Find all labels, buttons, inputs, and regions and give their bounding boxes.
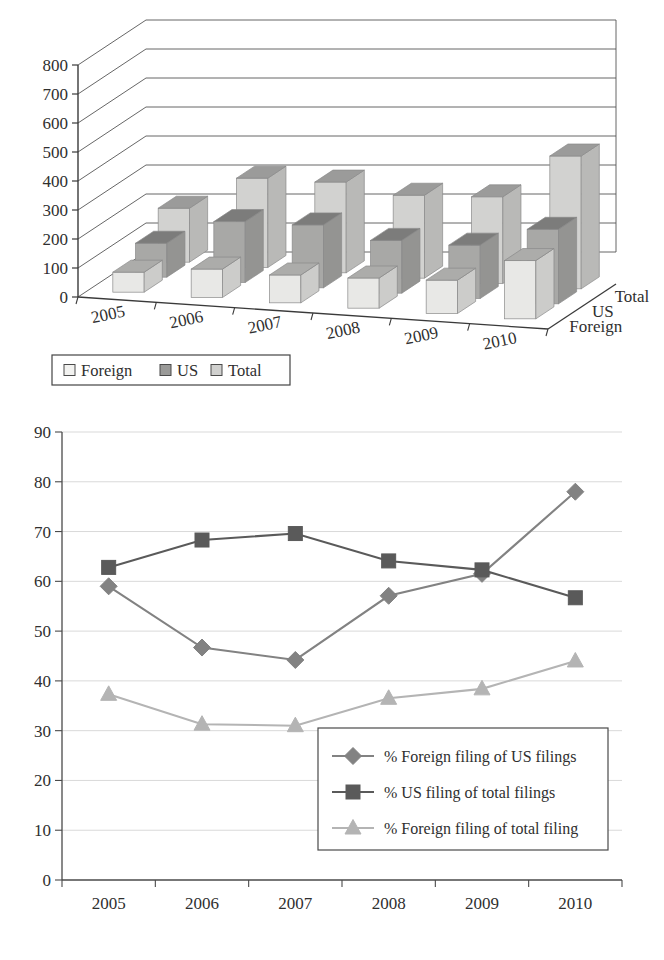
line-y-tick-label: 90 <box>34 423 51 442</box>
marker-diamond <box>380 587 397 604</box>
marker-square <box>568 591 582 605</box>
line-x-tick-label: 2010 <box>558 894 592 913</box>
svg-text:400: 400 <box>43 172 69 191</box>
marker-square <box>382 554 396 568</box>
bar-3d <box>505 249 554 319</box>
line-y-tick-label: 30 <box>34 722 51 741</box>
bar-chart-panel: 0100200300400500600700800200520062007200… <box>0 0 664 400</box>
bar-depth-label: Total <box>615 287 650 306</box>
marker-square <box>195 533 209 547</box>
marker-diamond <box>194 639 211 656</box>
line-y-tick-label: 60 <box>34 572 51 591</box>
marker-square <box>475 563 489 577</box>
bar-x-tick-label: 2007 <box>246 312 284 338</box>
line-legend: % Foreign filing of US filings% US filin… <box>318 728 608 850</box>
legend-label: % Foreign filing of total filing <box>384 820 578 838</box>
marker-diamond <box>100 578 117 595</box>
legend-label: Foreign <box>81 361 132 380</box>
line-x-tick-label: 2007 <box>278 894 313 913</box>
bar-legend: ForeignUSTotal <box>52 355 290 385</box>
legend-swatch <box>160 365 171 376</box>
svg-text:600: 600 <box>43 114 69 133</box>
bar-chart-svg: 0100200300400500600700800200520062007200… <box>0 0 664 400</box>
line-series <box>100 483 584 668</box>
marker-square <box>346 785 360 799</box>
marker-square <box>102 560 116 574</box>
svg-text:100: 100 <box>43 259 69 278</box>
svg-text:0: 0 <box>60 288 69 307</box>
svg-text:800: 800 <box>43 56 69 75</box>
bar-x-tick-label: 2005 <box>89 301 126 327</box>
bar-depth-label: Foreign <box>569 317 622 336</box>
marker-diamond <box>287 651 304 668</box>
line-x-tick-label: 2005 <box>92 894 126 913</box>
bar-3d <box>191 257 240 297</box>
line-chart-panel: 0102030405060708090200520062007200820092… <box>0 400 664 960</box>
line-series <box>102 527 583 605</box>
legend-swatch <box>211 365 222 376</box>
bar-x-tick-label: 2009 <box>403 323 440 349</box>
marker-triangle <box>101 686 117 701</box>
bar-3d <box>426 268 475 313</box>
line-x-tick-label: 2006 <box>185 894 219 913</box>
line-y-tick-label: 50 <box>34 622 51 641</box>
bar-x-tick-label: 2006 <box>168 307 205 333</box>
line-y-tick-label: 20 <box>34 771 51 790</box>
line-y-tick-label: 40 <box>34 672 51 691</box>
marker-triangle <box>567 652 583 667</box>
line-chart-svg: 0102030405060708090200520062007200820092… <box>0 400 664 960</box>
line-x-tick-label: 2008 <box>372 894 406 913</box>
legend-label: % Foreign filing of US filings <box>384 748 576 766</box>
svg-text:200: 200 <box>43 230 69 249</box>
legend-label: US <box>177 361 198 380</box>
line-y-tick-label: 70 <box>34 523 51 542</box>
legend-label: Total <box>228 361 262 380</box>
bar-3d <box>270 263 319 303</box>
bar-x-tick-label: 2010 <box>481 328 518 354</box>
svg-text:300: 300 <box>43 201 69 220</box>
legend-swatch <box>64 365 75 376</box>
line-y-tick-label: 10 <box>34 821 51 840</box>
bar-3d <box>348 266 397 308</box>
legend-label: % US filing of total filings <box>384 784 555 802</box>
line-x-tick-label: 2009 <box>465 894 499 913</box>
line-y-tick-label: 0 <box>43 871 52 890</box>
bar-3d <box>113 260 162 292</box>
svg-text:700: 700 <box>43 85 69 104</box>
bar-x-tick-label: 2008 <box>324 317 361 343</box>
line-y-tick-label: 80 <box>34 473 51 492</box>
line-series <box>101 652 584 731</box>
marker-square <box>288 527 302 541</box>
svg-text:500: 500 <box>43 143 69 162</box>
